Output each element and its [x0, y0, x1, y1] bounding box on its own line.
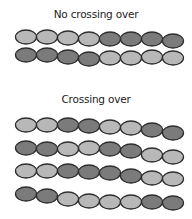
light-bead [142, 148, 163, 162]
dark-bead [121, 32, 142, 46]
light-bead [16, 118, 37, 132]
chromosome-diagram [0, 0, 192, 219]
dark-bead [79, 52, 100, 66]
light-bead [37, 30, 58, 44]
dark-bead [100, 32, 121, 46]
light-bead [58, 192, 79, 206]
dark-bead [163, 196, 184, 210]
light-bead [58, 142, 79, 156]
light-bead [121, 121, 142, 135]
dark-bead [58, 118, 79, 132]
dark-bead [16, 187, 37, 201]
dark-bead [121, 169, 142, 183]
light-bead [100, 51, 121, 65]
light-bead [16, 164, 37, 178]
light-bead [37, 164, 58, 178]
light-bead [79, 141, 100, 155]
dark-bead [37, 142, 58, 156]
dark-bead [37, 189, 58, 203]
dark-bead [79, 119, 100, 133]
light-bead [16, 30, 37, 44]
dark-bead [79, 165, 100, 179]
light-bead [58, 31, 79, 45]
chromosome-chain [16, 118, 184, 140]
light-bead [163, 150, 184, 164]
dark-bead [163, 126, 184, 140]
dark-bead [58, 164, 79, 178]
light-bead [79, 194, 100, 208]
dark-bead [142, 32, 163, 46]
dark-bead [142, 195, 163, 209]
light-bead [37, 118, 58, 132]
light-bead [121, 195, 142, 209]
dark-bead [16, 48, 37, 62]
chromosome-chain [16, 187, 184, 210]
light-bead [100, 195, 121, 209]
dark-bead [37, 48, 58, 62]
chromosome-chain [16, 164, 184, 186]
chromosome-chain [16, 30, 184, 48]
dark-bead [100, 142, 121, 156]
light-bead [79, 32, 100, 46]
chromosome-chain [16, 48, 184, 66]
chromosome-chain [16, 141, 184, 164]
light-bead [100, 120, 121, 134]
dark-bead [100, 166, 121, 180]
light-bead [142, 171, 163, 185]
light-bead [142, 50, 163, 64]
dark-bead [142, 123, 163, 137]
dark-bead [163, 34, 184, 48]
dark-bead [58, 50, 79, 64]
dark-bead [121, 144, 142, 158]
light-bead [121, 51, 142, 65]
dark-bead [16, 141, 37, 155]
light-bead [163, 51, 184, 65]
light-bead [163, 172, 184, 186]
